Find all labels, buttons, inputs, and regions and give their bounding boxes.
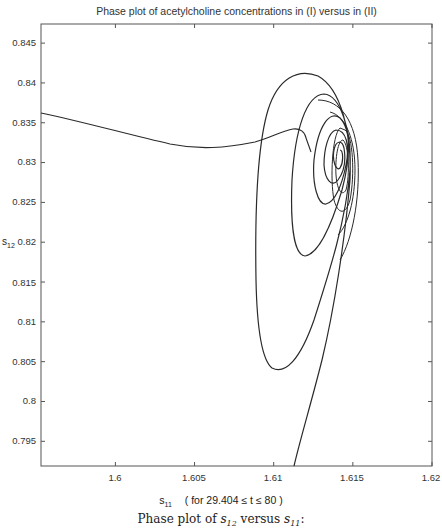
ytick-label: 0.845 — [0, 37, 36, 48]
axis-ticks — [41, 24, 432, 466]
xtick-label: 1.61 — [253, 472, 293, 483]
trajectory-curve — [41, 73, 358, 466]
ytick-label: 0.8 — [0, 395, 36, 406]
ytick-label: 0.83 — [0, 156, 36, 167]
ytick-label: 0.795 — [0, 435, 36, 446]
axes-frame — [41, 24, 432, 466]
ytick-label: 0.825 — [0, 196, 36, 207]
caption-prefix: Phase plot of — [138, 512, 221, 526]
x-axis-label: s11 ( for 29.404 ≤ t ≤ 80 ) — [0, 494, 442, 508]
caption-var-y-sub: 12 — [227, 519, 237, 528]
y-axis-label-subscript: 12 — [7, 242, 15, 249]
ytick-label: 0.81 — [0, 316, 36, 327]
plot-area — [0, 0, 442, 528]
x-axis-label-note: ( for 29.404 ≤ t ≤ 80 ) — [185, 494, 283, 506]
ytick-label: 0.815 — [0, 277, 36, 288]
ytick-label: 0.805 — [0, 356, 36, 367]
xtick-label: 1.62 — [411, 472, 442, 483]
xtick-label: 1.605 — [174, 472, 214, 483]
xtick-label: 1.6 — [95, 472, 135, 483]
ytick-label: 0.84 — [0, 77, 36, 88]
xtick-label: 1.615 — [332, 472, 372, 483]
ytick-label: 0.835 — [0, 117, 36, 128]
y-axis-label: s12 — [2, 236, 15, 249]
caption-suffix: : — [300, 512, 304, 526]
figure-caption: Phase plot of s12 versus s11: — [0, 512, 442, 528]
x-axis-label-subscript: 11 — [165, 501, 172, 508]
caption-var-x-sub: 11 — [290, 519, 300, 528]
caption-mid: versus — [237, 512, 284, 526]
